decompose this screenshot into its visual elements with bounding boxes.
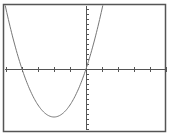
plot-frame	[4, 5, 166, 132]
graph-window	[0, 0, 169, 134]
